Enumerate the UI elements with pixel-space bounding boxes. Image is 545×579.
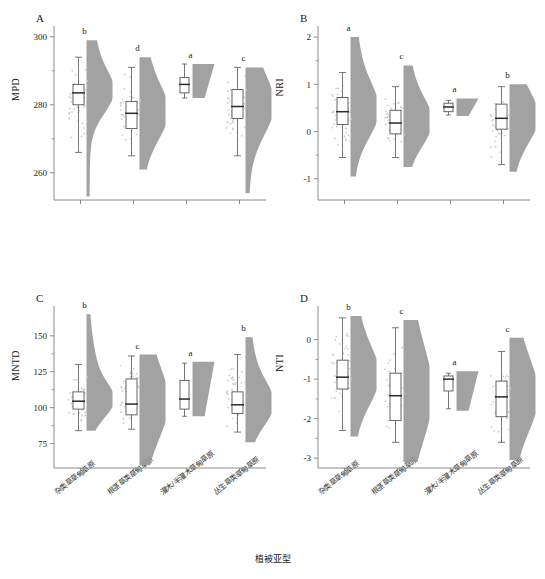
group-1: a: [331, 23, 376, 176]
svg-text:280: 280: [34, 100, 48, 110]
group-4: b: [226, 323, 272, 442]
group-1: b: [68, 26, 112, 196]
panel-d-plot: -3-2-10bcac: [272, 288, 537, 558]
svg-text:2: 2: [307, 32, 312, 42]
panel-b-letter: B: [300, 12, 307, 24]
panel-a-plot: 260280300bdac: [8, 8, 273, 290]
svg-text:125: 125: [34, 367, 48, 377]
panel-c-y-axis-title: MNTD: [10, 350, 21, 381]
svg-text:c: c: [400, 51, 404, 61]
panel-c-plot: 75100125150bcab: [8, 288, 273, 558]
group-3: a: [179, 50, 215, 98]
svg-text:c: c: [400, 306, 404, 316]
panel-b-y-axis-title: NRI: [274, 78, 285, 96]
group-2: c: [384, 51, 429, 167]
svg-text:a: a: [347, 23, 351, 33]
svg-text:100: 100: [34, 403, 48, 413]
svg-text:0: 0: [307, 335, 312, 345]
svg-text:b: b: [505, 70, 510, 80]
panel-d-y-axis-title: NTI: [274, 354, 285, 372]
group-1: b: [68, 300, 113, 430]
svg-text:300: 300: [34, 32, 48, 42]
svg-text:c: c: [136, 341, 140, 351]
svg-text:75: 75: [38, 439, 48, 449]
svg-text:d: d: [135, 43, 140, 53]
panel-a: A MPD 260280300bdac 杂类草草甸草原根茎草类草甸草原灌木/半灌…: [8, 8, 273, 290]
svg-text:1: 1: [307, 80, 312, 90]
panel-d: D NTI -3-2-10bcac 杂类草草甸草原根茎草类草甸草原灌木/半灌木草…: [272, 288, 537, 558]
panel-b-plot: -1012acab: [272, 8, 537, 290]
group-2: c: [384, 306, 430, 462]
panel-d-letter: D: [300, 292, 308, 304]
svg-text:b: b: [82, 26, 87, 36]
svg-text:c: c: [242, 53, 246, 63]
svg-text:0: 0: [307, 127, 312, 137]
svg-text:-1: -1: [304, 374, 312, 384]
svg-text:b: b: [82, 300, 87, 310]
panel-b: B NRI -1012acab 杂类草草甸草原根茎草类草甸草原灌木/半灌木草甸草…: [272, 8, 537, 290]
svg-text:b: b: [346, 302, 351, 312]
panel-a-letter: A: [36, 12, 44, 24]
group-4: c: [226, 53, 272, 193]
figure-container: A MPD 260280300bdac 杂类草草甸草原根茎草类草甸草原灌木/半灌…: [0, 0, 545, 579]
group-4: b: [490, 70, 536, 171]
svg-text:a: a: [453, 357, 457, 367]
svg-text:-3: -3: [304, 453, 312, 463]
group-3: a: [443, 84, 479, 115]
svg-text:a: a: [189, 348, 193, 358]
svg-text:-2: -2: [304, 414, 312, 424]
svg-text:a: a: [189, 50, 193, 60]
svg-text:c: c: [506, 324, 510, 334]
group-3: a: [179, 348, 215, 417]
svg-text:-1: -1: [304, 174, 312, 184]
svg-text:a: a: [453, 84, 457, 94]
svg-text:b: b: [241, 323, 246, 333]
panel-a-y-axis-title: MPD: [10, 78, 21, 101]
group-2: c: [120, 341, 166, 466]
svg-text:150: 150: [34, 331, 48, 341]
group-3: a: [443, 357, 479, 411]
x-axis-title: 植被亚型: [0, 552, 545, 565]
panel-c-letter: C: [36, 292, 43, 304]
group-2: d: [120, 43, 166, 169]
panel-c: C MNTD 75100125150bcab 杂类草草甸草原根茎草类草甸草原灌木…: [8, 288, 273, 558]
svg-text:260: 260: [34, 168, 48, 178]
group-4: c: [490, 324, 535, 460]
group-1: b: [331, 302, 377, 436]
